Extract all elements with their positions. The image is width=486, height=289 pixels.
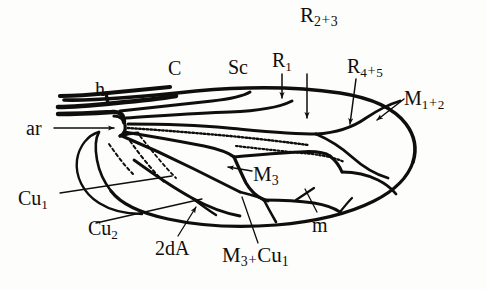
- label-m: m: [312, 215, 328, 235]
- first-anal-vein: [109, 144, 133, 174]
- anal-lobe-margin: [96, 132, 111, 191]
- r45-pointer: [350, 79, 356, 124]
- cu1-pointer: [60, 176, 172, 193]
- r1-vein: [126, 101, 292, 118]
- label-r2-3: R2+3: [300, 5, 338, 26]
- r2-3-vein: [316, 101, 400, 134]
- label-cu2: Cu2: [88, 218, 118, 238]
- wing-venation-figure: R2+3 C Sc R1 R4+5 M1+2 h ar M3 Cu1 Cu2 2…: [0, 0, 486, 289]
- label-m1-2: M1+2: [404, 88, 444, 108]
- m3cu1-pointer: [242, 197, 258, 243]
- label-2da: 2dA: [155, 238, 189, 258]
- label-cu1: Cu1: [18, 188, 48, 208]
- label-m3: M3: [253, 164, 279, 185]
- label-sc: Sc: [228, 57, 248, 77]
- humeral-crossvein: [106, 93, 108, 104]
- costal-margin-vein: [64, 88, 415, 162]
- label-r1: R1: [272, 50, 292, 70]
- m1-2-vein: [342, 172, 396, 194]
- cu2-vein: [134, 160, 240, 216]
- label-h: h: [95, 79, 105, 99]
- m3-vein: [264, 200, 340, 212]
- label-ar: ar: [26, 118, 42, 138]
- posterior-cell-divider-b: [264, 200, 276, 222]
- label-c: C: [168, 58, 181, 78]
- label-m3-plus-cu1: M3+Cu1: [222, 245, 289, 266]
- m-pointer: [305, 189, 317, 212]
- label-r4-5: R4+5: [347, 56, 383, 76]
